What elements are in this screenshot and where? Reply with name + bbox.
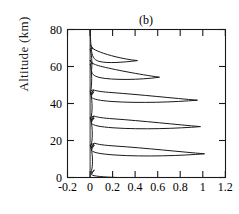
svg-text:0.4: 0.4 [128,180,143,194]
svg-text:1: 1 [200,180,206,194]
svg-text:0.6: 0.6 [150,180,165,194]
svg-text:40: 40 [50,97,62,111]
svg-text:1.2: 1.2 [218,180,233,194]
svg-text:0.8: 0.8 [173,180,188,194]
data-curve [90,30,205,178]
svg-text:0.2: 0.2 [105,180,120,194]
panel-title: (b) [139,13,153,27]
plot-svg: (b) [0,0,239,214]
svg-text:60: 60 [50,60,62,74]
svg-text:80: 80 [50,23,62,37]
svg-text:0: 0 [87,180,93,194]
svg-text:0: 0 [56,171,62,185]
x-tick-labels: -0.2 0 0.2 0.4 0.6 0.8 1 1.2 [58,180,233,194]
svg-text:20: 20 [50,134,62,148]
y-axis-title: Altitude (km) [16,0,32,134]
y-tick-labels: 0 20 40 60 80 [50,23,62,185]
figure-panel: Altitude (km) (b) [0,0,239,214]
